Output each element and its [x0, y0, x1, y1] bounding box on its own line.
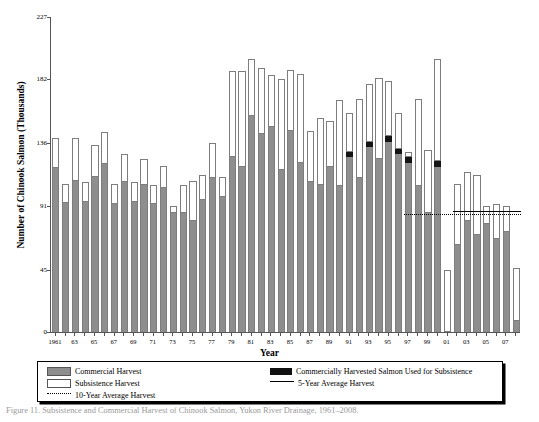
- y-tick-label: 182: [29, 76, 47, 83]
- legend-label: Commercially Harvested Salmon Used for S…: [296, 367, 472, 376]
- x-tick-label: 95: [385, 338, 392, 345]
- x-tick-label: 87: [306, 338, 313, 345]
- bar-segment-commercial: [366, 147, 373, 332]
- bar-segment-commercial: [170, 213, 177, 332]
- bar-segment-subsistence: [189, 181, 196, 221]
- x-tick-mark: [300, 332, 301, 336]
- bar-segment-subsistence: [336, 100, 343, 186]
- bar-segment-commercial: [503, 232, 510, 332]
- bar-segment-commercial: [229, 157, 236, 332]
- y-tick-label: 91: [29, 202, 47, 209]
- x-tick-mark: [358, 332, 359, 336]
- x-axis-line: 1961636567697173757779818385878991939597…: [50, 332, 520, 333]
- bar-segment-commercial: [62, 203, 69, 332]
- bar-segment-subsistence: [72, 138, 79, 181]
- bar-segment-commercial: [287, 131, 294, 332]
- bar-segment-commercial: [297, 163, 304, 332]
- bar-segment-subsistence: [415, 99, 422, 186]
- x-tick-mark: [378, 332, 379, 336]
- bar-segment-commercial-used-for-subsistence: [434, 161, 441, 167]
- x-tick-mark: [94, 332, 95, 336]
- bar-segment-commercial: [101, 164, 108, 332]
- legend-item-commercial: Commercial Harvest: [47, 366, 141, 376]
- x-tick-label: 85: [287, 338, 294, 345]
- bar-segment-commercial-used-for-subsistence: [366, 142, 373, 148]
- bar-segment-commercial-used-for-subsistence: [395, 149, 402, 155]
- x-tick-mark: [133, 332, 134, 336]
- x-tick-mark: [114, 332, 115, 336]
- bar-segment-commercial: [473, 235, 480, 332]
- y-axis-title: Number of Chinook Salmon (Thousands): [16, 40, 26, 290]
- x-tick-mark: [202, 332, 203, 336]
- x-tick-mark: [417, 332, 418, 336]
- x-tick-label: 71: [150, 338, 157, 345]
- legend-label: 10-Year Average Harvest: [75, 391, 155, 400]
- bar-segment-commercial: [219, 197, 226, 332]
- bar-segment-subsistence: [366, 84, 373, 142]
- bar-segment-commercial: [189, 221, 196, 332]
- bar-segment-commercial: [91, 177, 98, 332]
- bar-segment-subsistence: [121, 154, 128, 182]
- bar-segment-subsistence: [385, 81, 392, 137]
- bar-segment-subsistence: [248, 59, 255, 116]
- x-tick-label: 01: [443, 338, 450, 345]
- bar-segment-subsistence: [287, 70, 294, 131]
- subsistence-swatch-icon: [47, 379, 71, 388]
- x-tick-label: 63: [71, 338, 78, 345]
- x-tick-mark: [172, 332, 173, 336]
- chart-figure: Number of Chinook Salmon (Thousands) 045…: [0, 0, 539, 422]
- figure-caption: Figure 11. Subsistence and Commercial Ha…: [6, 406, 533, 416]
- y-tick-mark: [47, 143, 51, 144]
- bar-segment-subsistence: [140, 159, 147, 185]
- y-tick-label: 45: [29, 266, 47, 273]
- chart-legend: Commercial Harvest Subsistence Harvest 1…: [37, 361, 503, 402]
- x-tick-label: 1961: [48, 338, 61, 345]
- bar-segment-subsistence: [82, 182, 89, 201]
- x-tick-mark: [212, 332, 213, 336]
- x-tick-mark: [466, 332, 467, 336]
- x-tick-mark: [349, 332, 350, 336]
- x-tick-label: 75: [189, 338, 196, 345]
- bar-segment-commercial: [209, 178, 216, 332]
- bar-segment-commercial: [346, 157, 353, 332]
- x-tick-mark: [290, 332, 291, 336]
- bar-series-container: [51, 17, 521, 332]
- bar-segment-commercial: [111, 204, 118, 332]
- x-tick-mark: [65, 332, 66, 336]
- bar-segment-subsistence: [356, 99, 363, 178]
- x-tick-label: 83: [267, 338, 274, 345]
- bar-segment-commercial: [493, 239, 500, 332]
- x-tick-mark: [319, 332, 320, 336]
- x-tick-mark: [407, 332, 408, 336]
- bar-segment-commercial: [199, 200, 206, 332]
- x-tick-mark: [241, 332, 242, 336]
- bar-segment-subsistence: [278, 79, 285, 169]
- legend-label: Commercial Harvest: [75, 367, 141, 376]
- x-tick-mark: [84, 332, 85, 336]
- x-tick-mark: [270, 332, 271, 336]
- x-tick-label: 79: [228, 338, 235, 345]
- x-tick-mark: [143, 332, 144, 336]
- bar-segment-commercial: [424, 213, 431, 332]
- x-tick-label: 77: [208, 338, 215, 345]
- legend-item-commercial-used-for-subsistence: Commercially Harvested Salmon Used for S…: [270, 366, 472, 376]
- bar-segment-commercial: [395, 154, 402, 332]
- bar-segment-commercial: [385, 142, 392, 332]
- bar-segment-subsistence: [238, 71, 245, 167]
- x-tick-label: 05: [482, 338, 489, 345]
- x-tick-mark: [368, 332, 369, 336]
- x-tick-mark: [398, 332, 399, 336]
- bar-segment-subsistence: [170, 206, 177, 213]
- bar-segment-commercial: [150, 204, 157, 332]
- bar-segment-subsistence: [395, 113, 402, 149]
- bar-segment-commercial: [513, 321, 520, 332]
- bar-segment-commercial: [326, 167, 333, 332]
- x-tick-label: 73: [169, 338, 176, 345]
- bar-segment-subsistence: [131, 182, 138, 201]
- bar-segment-subsistence: [91, 145, 98, 177]
- x-tick-mark: [153, 332, 154, 336]
- x-tick-mark: [163, 332, 164, 336]
- y-tick-mark: [47, 17, 51, 18]
- bar-segment-subsistence: [326, 121, 333, 167]
- y-tick-mark: [47, 206, 51, 207]
